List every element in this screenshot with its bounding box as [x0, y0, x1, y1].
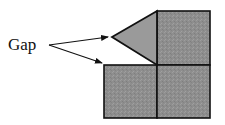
top-right-square: [157, 11, 210, 65]
bottom-left-square: [104, 65, 157, 118]
gap-label: Gap: [8, 35, 36, 54]
wedge-triangle: [112, 11, 157, 65]
arrow-to-triangle-tip: [49, 37, 108, 45]
bottom-right-square: [157, 65, 210, 118]
gap-diagram: Gap: [0, 0, 225, 125]
arrow-to-bottom-left-square: [49, 45, 102, 63]
